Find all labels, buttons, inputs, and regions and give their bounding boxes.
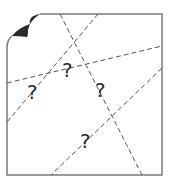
question-mark: ?	[80, 129, 91, 153]
folded-corner-icon	[12, 14, 40, 37]
crease-line	[51, 68, 162, 175]
question-mark: ?	[27, 80, 38, 104]
folded-paper-diagram: ? ? ? ?	[0, 0, 170, 191]
question-mark: ?	[95, 78, 106, 102]
question-mark: ?	[62, 58, 73, 82]
crease-line	[7, 46, 162, 83]
